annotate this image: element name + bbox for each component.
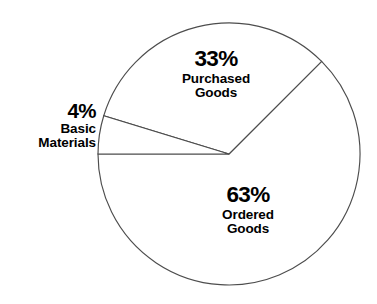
slice-name-ordered-goods-line1: Ordered [192, 208, 304, 222]
slice-label-ordered-goods: 63% Ordered Goods [192, 183, 304, 236]
slice-percent-purchased-goods: 33% [152, 47, 280, 71]
slice-label-purchased-goods: 33% Purchased Goods [152, 47, 280, 100]
slice-name-basic-materials-line2: Materials [0, 136, 96, 150]
slice-name-basic-materials-line1: Basic [0, 122, 96, 136]
pie-chart-figure: 33% Purchased Goods 63% Ordered Goods 4%… [0, 0, 377, 304]
slice-name-ordered-goods-line2: Goods [192, 222, 304, 236]
slice-name-purchased-goods-line2: Goods [152, 86, 280, 100]
slice-name-purchased-goods-line1: Purchased [152, 72, 280, 86]
slice-percent-basic-materials: 4% [0, 100, 96, 122]
slice-percent-ordered-goods: 63% [192, 183, 304, 207]
pie-chart-graphic [0, 0, 377, 304]
slice-label-basic-materials: 4% Basic Materials [0, 100, 96, 150]
